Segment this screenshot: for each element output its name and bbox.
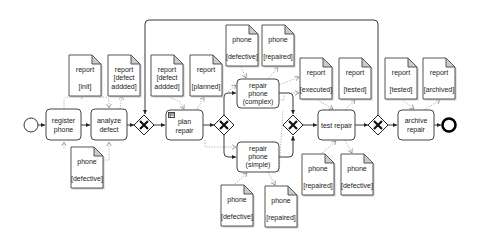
task-register-phone[interactable]: register phone xyxy=(46,109,81,140)
task-label: defect xyxy=(99,126,118,133)
data-object-label: report xyxy=(430,69,448,77)
data-object-phone-repaired-1[interactable]: phone[repaired] xyxy=(262,25,296,68)
data-object-label: report xyxy=(392,69,410,77)
task-label: phone xyxy=(54,126,74,134)
data-object-report-planned[interactable]: report[planned] xyxy=(190,55,224,98)
exclusive-gateway-join[interactable] xyxy=(283,115,303,135)
data-object-label: phone xyxy=(77,158,97,166)
task-test-repair[interactable]: test repair xyxy=(318,110,355,140)
data-object-label: [tested] xyxy=(344,86,367,94)
flow-gw2-complex[interactable] xyxy=(224,93,236,115)
data-object-phone-defective-4[interactable]: phone[defective] xyxy=(221,185,255,228)
data-object-label: [repaired] xyxy=(266,214,296,222)
data-object-phone-repaired-2[interactable]: phone[repaired] xyxy=(302,154,336,197)
exclusive-gateway-loop-merge[interactable] xyxy=(134,115,154,135)
task-label: phone xyxy=(248,90,268,98)
start-event[interactable] xyxy=(24,118,38,132)
task-label: analyze xyxy=(97,117,121,125)
exclusive-gateway-split[interactable] xyxy=(214,115,234,135)
data-object-label: report xyxy=(158,66,176,74)
data-object-phone-defective-3[interactable]: phone[defective] xyxy=(341,154,375,197)
data-object-label: phone xyxy=(268,36,288,44)
data-object-label: [init] xyxy=(79,83,92,91)
data-object-report-executed[interactable]: report[executed] xyxy=(300,58,334,101)
flow-complex-gw3[interactable] xyxy=(279,93,293,114)
task-analyze-defect[interactable]: analyze defect xyxy=(91,109,127,140)
data-object-phone-defective-2[interactable]: phone[defective] xyxy=(226,25,260,68)
task-archive-repair[interactable]: archive repair xyxy=(398,110,434,140)
data-object-report-tested-2[interactable]: report[tested] xyxy=(385,58,419,101)
data-object-label: addded] xyxy=(154,83,179,91)
data-object-label: [executed] xyxy=(300,86,332,94)
business-rule-table-icon xyxy=(169,113,175,118)
data-object-label: report xyxy=(115,66,133,74)
task-plan-repair[interactable]: plan repair xyxy=(166,110,203,140)
task-label: repair xyxy=(407,126,426,134)
data-object-phone-defective-1[interactable]: phone[defective] xyxy=(71,147,105,190)
data-object-label: phone xyxy=(347,165,367,173)
data-object-report-defect-added-1[interactable]: report[defectaddded] xyxy=(108,55,142,98)
task-label: repair xyxy=(249,145,268,153)
task-repair-phone-complex[interactable]: repair phone (complex) xyxy=(237,79,279,108)
data-object-label: phone xyxy=(308,165,328,173)
data-object-label: report xyxy=(307,69,325,77)
data-object-label: report xyxy=(346,69,364,77)
end-event[interactable] xyxy=(443,119,456,132)
data-object-label: [repaired] xyxy=(303,182,333,190)
data-object-label: [defective] xyxy=(226,53,258,61)
data-object-label: [repaired] xyxy=(263,53,293,61)
flow-gw2-simple[interactable] xyxy=(224,135,236,157)
data-object-label: phone xyxy=(227,196,247,204)
task-label: archive xyxy=(405,117,428,124)
data-object-label: [defect xyxy=(156,74,177,82)
exclusive-gateway-test-decision[interactable] xyxy=(368,115,388,135)
data-object-label: [defective] xyxy=(71,175,103,183)
data-object-report-defect-added-2[interactable]: report[defectaddded] xyxy=(151,55,185,98)
data-object-label: [defective] xyxy=(221,213,253,221)
task-label: test repair xyxy=(321,122,353,130)
data-object-label: report xyxy=(197,66,215,74)
data-object-label: [defect xyxy=(113,74,134,82)
data-object-label: phone xyxy=(232,36,252,44)
data-object-label: [archived] xyxy=(424,86,454,94)
task-label: plan xyxy=(178,118,191,126)
bpmn-diagram: register phone analyze defect plan repai… xyxy=(0,0,484,240)
task-label: (simple) xyxy=(246,161,271,169)
data-object-label: [planned] xyxy=(192,83,221,91)
data-object-report-archived[interactable]: report[archived] xyxy=(423,58,457,101)
task-label: repair xyxy=(249,82,268,90)
data-object-label: phone xyxy=(271,197,291,205)
data-object-label: addded] xyxy=(111,83,136,91)
data-object-phone-repaired-3[interactable]: phone[repaired] xyxy=(265,186,299,229)
task-label: (complex) xyxy=(243,98,274,106)
task-repair-phone-simple[interactable]: repair phone (simple) xyxy=(237,142,279,172)
data-object-label: report xyxy=(76,66,94,74)
task-label: register xyxy=(52,117,76,125)
task-label: phone xyxy=(248,153,268,161)
data-object-report-tested-1[interactable]: report[tested] xyxy=(339,58,373,101)
data-object-label: [tested] xyxy=(390,86,413,94)
task-label: repair xyxy=(176,127,195,135)
data-object-label: [defective] xyxy=(341,182,373,190)
data-object-report-init[interactable]: report[init] xyxy=(69,55,103,98)
